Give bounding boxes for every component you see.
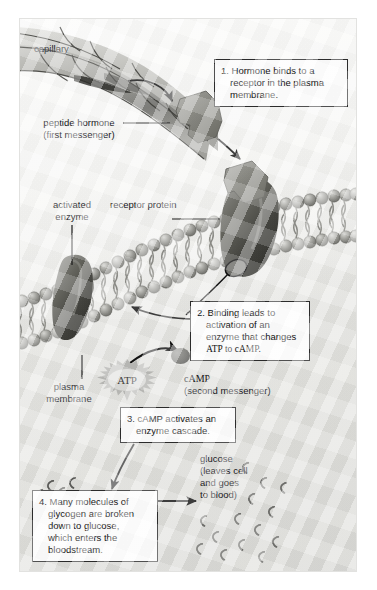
step-1-line-1: 1. Hormone binds to a: [221, 65, 341, 77]
step-4-callout: 4. Many molecules of glycogen are broken…: [32, 490, 158, 562]
step-1-callout: 1. Hormone binds to a receptor in the pl…: [214, 59, 348, 107]
label-camp-line2: (second messenger): [184, 385, 271, 397]
atp-molecule: ATP: [97, 359, 157, 401]
label-peptide-hormone-line2: (first messenger): [34, 129, 124, 141]
step-3-line-2: enzyme cascade.: [127, 425, 229, 437]
step-3-callout: 3. cAMP activates an enzyme cascade.: [120, 407, 236, 443]
label-plasma-membrane-line2: membrane: [32, 393, 106, 405]
step-1-line-2: receptor in the plasma: [221, 77, 341, 89]
step-4-line-1: 4. Many molecules of: [39, 496, 151, 508]
illustration-panel: ATP capillary peptide hormone (first mes…: [20, 19, 356, 571]
label-camp-line1: cAMP: [184, 373, 210, 385]
step-4-line-5: bloodstream.: [39, 544, 151, 556]
label-plasma-membrane-line1: plasma: [32, 381, 106, 393]
label-glucose-line4: to blood): [200, 489, 237, 501]
label-receptor-protein: receptor protein: [110, 199, 177, 211]
step-2-callout: 2. Binding leads to activation of an enz…: [190, 301, 310, 361]
step-2-line-1: 2. Binding leads to: [197, 307, 303, 319]
step-4-line-2: glycogen are broken: [39, 508, 151, 520]
label-glucose-line2: (leaves cell: [200, 465, 248, 477]
step-3-line-1: 3. cAMP activates an: [127, 413, 229, 425]
label-activated-enzyme-line1: activated: [42, 199, 102, 211]
step-2-line-4: ATP to cAMP.: [197, 343, 303, 355]
label-peptide-hormone-line1: peptide hormone: [34, 117, 124, 129]
atp-label: ATP: [97, 359, 157, 401]
label-glucose-line3: and goes: [200, 477, 239, 489]
camp-molecule: [171, 348, 190, 364]
label-glucose-line1: glucose: [200, 453, 233, 465]
step-2-line-3: enzyme that changes: [197, 331, 303, 343]
label-activated-enzyme-line2: enzyme: [42, 211, 102, 223]
label-capillary: capillary: [34, 43, 69, 55]
step-4-line-3: down to glucose,: [39, 520, 151, 532]
step-2-line-2: activation of an: [197, 319, 303, 331]
step-4-line-4: which enters the: [39, 532, 151, 544]
figure-canvas: ATP capillary peptide hormone (first mes…: [0, 0, 377, 590]
step-1-line-3: membrane.: [221, 89, 341, 101]
